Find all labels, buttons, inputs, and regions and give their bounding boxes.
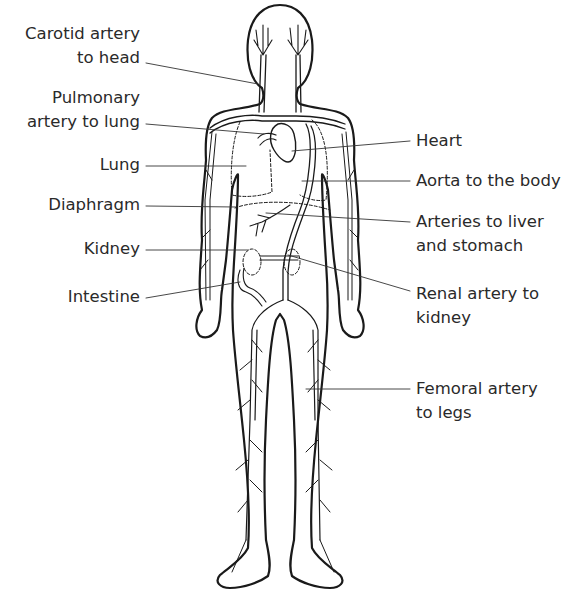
label-femoral-artery: Femoral artery to legs bbox=[416, 377, 538, 425]
heart bbox=[271, 123, 296, 161]
label-liver-stomach-arteries: Arteries to liver and stomach bbox=[416, 210, 544, 258]
kidney-right bbox=[284, 249, 300, 275]
leader-lines bbox=[146, 63, 410, 389]
label-pulmonary-artery: Pulmonary artery to lung bbox=[27, 86, 140, 134]
intestine bbox=[238, 268, 266, 306]
label-diaphragm: Diaphragm bbox=[48, 193, 140, 217]
head-arteries bbox=[254, 25, 308, 55]
kidney-left bbox=[243, 249, 261, 275]
label-heart: Heart bbox=[416, 129, 462, 153]
liver-arteries bbox=[250, 205, 290, 236]
label-renal-artery: Renal artery to kidney bbox=[416, 282, 539, 330]
pulmonary-artery bbox=[258, 133, 276, 145]
label-kidney: Kidney bbox=[84, 237, 140, 261]
body-outline bbox=[196, 5, 363, 588]
carotid-artery bbox=[259, 55, 301, 112]
label-intestine: Intestine bbox=[68, 285, 140, 309]
label-carotid-artery: Carotid artery to head bbox=[25, 22, 140, 70]
label-lung: Lung bbox=[100, 153, 140, 177]
femoral-artery bbox=[246, 300, 320, 540]
label-aorta: Aorta to the body bbox=[416, 169, 561, 193]
